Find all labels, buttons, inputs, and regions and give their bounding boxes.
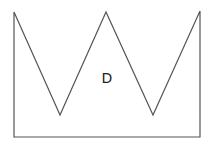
shape-label: D xyxy=(98,69,116,87)
